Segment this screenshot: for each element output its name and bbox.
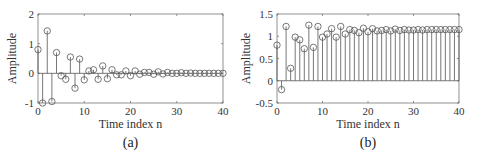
y-tick-label: -0.5 [256,97,274,109]
x-tick-label: 30 [171,105,183,117]
x-tick-label: 0 [274,105,280,117]
x-tick-label: 10 [79,105,91,117]
stem-plot-b: 010203040-0.500.511.5Time index nAmplitu… [239,8,465,151]
stem-plot-a: 010203040-1012Time index nAmplitude(a) [5,8,229,151]
panel-caption: (a) [123,135,139,151]
y-tick-label: 0 [29,67,35,79]
x-tick-label: 10 [317,105,329,117]
y-tick-label: 1.5 [259,8,273,20]
x-axis-title: Time index n [336,117,400,131]
y-tick-label: 2 [29,8,35,20]
y-tick-label: 1 [268,30,274,42]
x-tick-label: 0 [35,105,41,117]
x-tick-label: 20 [125,105,137,117]
x-tick-label: 40 [218,105,230,117]
x-tick-label: 40 [454,105,466,117]
figure: 010203040-1012Time index nAmplitude(a) 0… [0,0,478,154]
y-tick-label: 0 [268,75,274,87]
y-axis-title: Amplitude [5,33,19,84]
x-axis-title: Time index n [99,117,163,131]
y-axis-title: Amplitude [239,33,253,84]
y-tick-label: -1 [25,97,34,109]
y-tick-label: 1 [29,38,35,50]
x-tick-label: 20 [363,105,375,117]
y-tick-label: 0.5 [259,53,273,65]
plot-frame [38,14,223,103]
x-tick-label: 30 [408,105,420,117]
panel-caption: (b) [360,135,377,151]
